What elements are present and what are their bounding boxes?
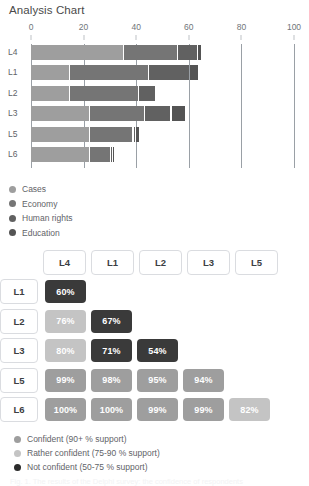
bar-segment [178,45,197,60]
matrix-cell[interactable]: 54% [137,339,178,362]
bar-chart-row: L1 [0,64,309,81]
bar-segment [149,65,189,80]
bar-row-label: L1 [8,67,28,77]
legend-swatch-icon [9,229,16,236]
matrix-cell[interactable]: 82% [229,398,270,421]
confidence-legend-item[interactable]: Confident (90+ % support) [14,432,160,446]
confidence-legend-item[interactable]: Not confident (50-75 % support) [14,460,160,474]
x-axis-tick-label: 0 [29,22,34,32]
matrix-cell[interactable]: 76% [45,310,86,333]
matrix-row: L599%98%95%94% [0,368,309,392]
matrix-row-header[interactable]: L1 [0,279,38,304]
matrix-row-header[interactable]: L2 [0,309,38,334]
legend-item-label: Cases [22,184,46,194]
bar-segment [124,45,177,60]
matrix-row: L276%67% [0,309,309,333]
x-axis: 020406080100 [0,22,309,36]
matrix-cell[interactable]: 99% [137,398,178,421]
legend-item[interactable]: Human rights [9,211,73,226]
bar-segment [111,147,112,162]
confidence-swatch-icon [14,450,21,457]
matrix-column-header[interactable]: L1 [91,250,134,275]
legend-item-label: Human rights [22,213,73,223]
matrix-cell[interactable]: 99% [45,369,86,392]
bar-segment [145,106,170,121]
bar-segment [190,65,198,80]
matrix-cell[interactable]: 60% [45,280,86,303]
x-axis-tick-mark [241,35,242,40]
bar-segment [70,65,148,80]
legend-swatch-icon [9,186,16,193]
x-axis-tick-label: 80 [237,22,246,32]
bar-segment [136,127,139,142]
bar-segment [139,86,155,101]
bar-segments [31,106,294,121]
bar-segment [31,106,89,121]
bar-chart: 020406080100 L4L1L2L3L5L6 [0,22,309,172]
bar-chart-row: L3 [0,105,309,122]
bar-chart-row: L2 [0,85,309,102]
bar-segment [134,127,135,142]
matrix-cell[interactable]: 67% [91,310,132,333]
bar-segment [70,86,137,101]
bar-segment [31,86,69,101]
bar-chart-row: L6 [0,146,309,163]
bar-segments [31,45,294,60]
bar-chart-rows: L4L1L2L3L5L6 [0,44,309,166]
bar-row-label: L5 [8,129,28,139]
matrix-cell[interactable]: 80% [45,339,86,362]
confidence-swatch-icon [14,436,21,443]
matrix-row-header[interactable]: L3 [0,338,38,363]
x-axis-tick-mark [136,35,137,40]
bar-segment [90,147,110,162]
bar-segments [31,127,294,142]
legend-item-label: Education [22,228,60,238]
matrix-column-header[interactable]: L5 [235,250,278,275]
matrix-cell[interactable]: 98% [91,369,132,392]
x-axis-tick-mark [31,35,32,40]
bar-row-label: L6 [8,149,28,159]
confidence-swatch-icon [14,464,21,471]
bar-segment [198,45,201,60]
x-axis-tick-mark [294,35,295,40]
x-axis-tick-label: 20 [79,22,88,32]
confidence-legend-label: Rather confident (75-90 % support) [27,448,160,458]
x-axis-tick-mark [83,35,84,40]
matrix-cell[interactable]: 94% [183,369,224,392]
matrix-row: L380%71%54% [0,339,309,363]
matrix-cell[interactable]: 71% [91,339,132,362]
confidence-legend-item[interactable]: Rather confident (75-90 % support) [14,446,160,460]
confidence-legend-label: Not confident (50-75 % support) [27,462,147,472]
matrix-column-header[interactable]: L3 [187,250,230,275]
page-title: Analysis Chart [9,4,85,16]
matrix-column-header[interactable]: L2 [139,250,182,275]
bar-segments [31,147,294,162]
bar-segment [90,127,132,142]
bar-row-label: L3 [8,108,28,118]
matrix-cell[interactable]: 100% [45,398,86,421]
x-axis-tick-label: 60 [184,22,193,32]
bar-segments [31,65,294,80]
bar-segment [113,147,114,162]
matrix-row: L6100%100%99%99%82% [0,398,309,422]
bar-segment [31,45,123,60]
matrix-cell[interactable]: 99% [183,398,224,421]
matrix-row-header[interactable]: L5 [0,368,38,393]
matrix-column-header[interactable]: L4 [43,250,86,275]
matrix-cell[interactable]: 100% [91,398,132,421]
legend-item[interactable]: Cases [9,182,73,197]
legend-item-label: Economy [22,199,57,209]
matrix-cell[interactable]: 95% [137,369,178,392]
bar-row-label: L4 [8,47,28,57]
legend-item[interactable]: Economy [9,197,73,212]
legend-item[interactable]: Education [9,226,73,241]
bar-segment [31,65,69,80]
matrix-row: L160% [0,280,309,304]
series-legend: CasesEconomyHuman rightsEducation [9,182,73,240]
figure-caption: Fig. 1. The results of the Delphi survey… [10,477,300,486]
confidence-matrix: L4L1L2L3L5L160%L276%67%L380%71%54%L599%9… [0,250,309,427]
bar-chart-row: L5 [0,126,309,143]
matrix-row-header[interactable]: L6 [0,397,38,422]
bar-segment [31,147,89,162]
bar-chart-row: L4 [0,44,309,61]
